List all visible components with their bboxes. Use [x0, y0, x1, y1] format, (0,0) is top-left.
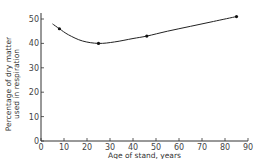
axes [41, 13, 248, 141]
y-ticks: 01020304050 [29, 15, 44, 146]
data-point [145, 34, 148, 37]
y-tick-label: 10 [29, 113, 39, 122]
y-tick-label: 40 [29, 39, 39, 48]
x-tick-label: 20 [82, 143, 92, 152]
x-tick-label: 90 [243, 143, 253, 152]
x-tick-label: 10 [59, 143, 69, 152]
data-point [97, 42, 100, 45]
x-ticks: 0102030405060708090 [38, 138, 253, 152]
y-axis-label-line: used in respiration [12, 49, 21, 119]
chart: Percentage of dry matterused in respirat… [0, 0, 265, 159]
x-axis-label: Age of stand, years [108, 151, 181, 159]
data-point [58, 27, 61, 30]
y-axis-label: Percentage of dry matterused in respirat… [4, 36, 21, 131]
y-tick-label: 30 [29, 64, 39, 73]
series-line [53, 17, 237, 44]
data-point [235, 15, 238, 18]
y-tick-label: 20 [29, 88, 39, 97]
y-tick-label: 50 [29, 15, 39, 24]
x-tick-label: 70 [197, 143, 207, 152]
y-tick-label: 0 [34, 137, 39, 146]
x-tick-label: 80 [220, 143, 230, 152]
x-tick-label: 0 [38, 143, 43, 152]
data-points [58, 15, 238, 45]
